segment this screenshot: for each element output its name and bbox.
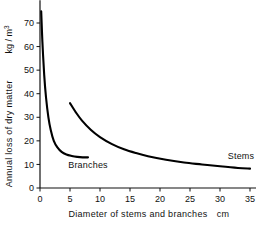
y-tick-label: 0 (29, 183, 34, 193)
y-tick-label: 50 (24, 65, 34, 75)
x-axis-title: Diameter of stems and branches (68, 209, 207, 219)
axis-titles-group: Diameter of stems and branchescmAnnual l… (3, 25, 230, 219)
series-label-branches: Branches (68, 160, 108, 170)
y-tick-label: 30 (24, 112, 34, 122)
y-tick-label: 70 (24, 18, 34, 28)
x-tick-label: 5 (67, 194, 72, 204)
y-axis-title: Annual loss of dry matter (4, 80, 14, 187)
x-tick-label: 10 (95, 194, 105, 204)
x-axis-unit-label: cm (217, 209, 230, 219)
y-axis-unit-exponent: 3 (3, 25, 10, 29)
y-tick-label: 40 (24, 89, 34, 99)
data-curves-group (41, 11, 250, 168)
y-tick-label: 10 (24, 160, 34, 170)
y-tick-labels-group: 010203040506070 (24, 18, 34, 193)
chart-plot-area: 05101520253035 010203040506070 BranchesS… (0, 0, 269, 231)
x-tick-label: 35 (245, 194, 255, 204)
y-axis-unit-label: kg / m3 (3, 25, 14, 54)
series-label-stems: Stems (228, 151, 255, 161)
chart-figure: 05101520253035 010203040506070 BranchesS… (0, 0, 269, 231)
x-tick-label: 30 (215, 194, 225, 204)
x-tick-label: 20 (155, 194, 165, 204)
y-tick-label: 60 (24, 42, 34, 52)
x-tick-label: 25 (185, 194, 195, 204)
data-curve-branches (41, 11, 88, 157)
x-tick-label: 0 (37, 194, 42, 204)
x-tick-label: 15 (125, 194, 135, 204)
x-tick-labels-group: 05101520253035 (37, 194, 255, 204)
data-curve-stems (70, 103, 250, 169)
y-tick-label: 20 (24, 136, 34, 146)
